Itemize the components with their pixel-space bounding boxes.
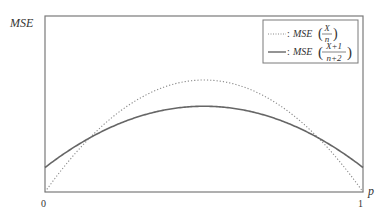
legend-num-1: X [323,23,330,33]
x-tick-0: 0 [41,198,46,209]
legend-paren-close-1: ) [333,26,338,42]
y-axis-label: MSE [9,16,34,30]
svg-text::: : [287,46,290,57]
legend-label-1: MSE [292,28,312,39]
legend-label-2: MSE [292,46,312,57]
legend-paren-open-2: ( [318,44,323,61]
legend-num-2: X+1 [325,41,342,51]
legend-colon-1: : [287,28,290,39]
legend: : MSE ( X n ) : MSE ( X+1 n+2 ) [263,20,358,63]
x-tick-1: 1 [358,198,363,209]
legend-paren-close-2: ) [347,44,352,61]
svg-text::: : [287,28,290,39]
mse-chart: MSE p 0 1 : MSE ( X n ) : MSE ( X+1 n+2 … [0,0,388,217]
x-axis-label: p [367,184,374,198]
curve-mse-x-plus-1-over-n-plus-2 [45,106,363,167]
legend-den-2: n+2 [326,53,342,63]
